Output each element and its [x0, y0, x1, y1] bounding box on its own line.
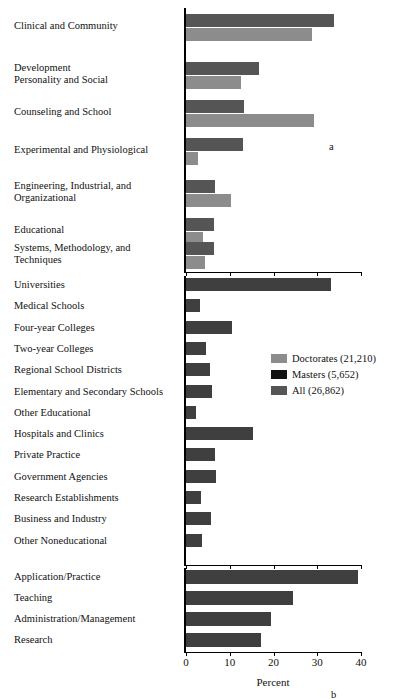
legend-label-masters: Masters (5,652): [292, 369, 359, 381]
category-label-b-9: Government Agencies: [14, 471, 180, 483]
panel-b-employment-settings: UniversitiesMedical SchoolsFour-year Col…: [0, 276, 394, 568]
bar-a-6-doctorates: [186, 256, 205, 269]
legend-item-doctorates: Doctorates (21,210): [271, 351, 393, 366]
category-label-c-2: Administration/Management: [14, 613, 180, 625]
category-label-a-3: Experimental and Physiological: [14, 144, 180, 156]
panel-a-subfields: Clinical and CommunityDevelopmentPersona…: [0, 8, 394, 274]
legend-item-all: All (26,862): [271, 383, 393, 398]
x-tick-label-0: 0: [183, 656, 189, 668]
category-label-b-6: Other Educational: [14, 407, 180, 419]
x-tick-label-30: 30: [312, 656, 323, 668]
category-label-a-5: Educational: [14, 224, 180, 236]
panel-c-primary-activities: 010203040 Percent Application/PracticeTe…: [0, 568, 394, 699]
category-label-line1: Clinical and Community: [14, 20, 118, 31]
category-label-b-10: Research Establishments: [14, 492, 180, 504]
bar-b-2: [186, 321, 232, 334]
category-label-line2: Organizational: [14, 192, 180, 204]
category-label-a-2: Counseling and School: [14, 106, 180, 118]
category-label-b-2: Four-year Colleges: [14, 322, 180, 334]
bar-b-8: [186, 448, 215, 461]
x-tick-label-40: 40: [356, 656, 367, 668]
bar-a-3-all: [186, 138, 243, 151]
x-axis-a: [184, 272, 362, 273]
legend-item-masters: Masters (5,652): [271, 367, 393, 382]
category-label-a-1: DevelopmentPersonality and Social: [14, 62, 180, 85]
bar-b-7: [186, 427, 253, 440]
category-label-c-0: Application/Practice: [14, 571, 180, 583]
bar-a-4-doctorates: [186, 194, 231, 207]
category-label-line1: Engineering, Industrial, and: [14, 180, 131, 191]
x-tick-label-10: 10: [224, 656, 235, 668]
category-label-b-11: Business and Industry: [14, 513, 180, 525]
bar-a-2-all: [186, 100, 244, 113]
category-label-b-5: Elementary and Secondary Schools: [14, 386, 180, 398]
bar-b-12: [186, 534, 202, 547]
category-label-line1: Experimental and Physiological: [14, 144, 148, 155]
legend-label-doctorates: Doctorates (21,210): [292, 353, 376, 365]
x-axis-title: Percent: [184, 676, 362, 688]
category-label-b-7: Hospitals and Clinics: [14, 428, 180, 440]
x-axis-tick-labels: 010203040: [184, 656, 362, 670]
bar-a-0-doctorates: [186, 28, 312, 41]
bar-c-1: [186, 591, 293, 605]
category-label-a-4: Engineering, Industrial, andOrganization…: [14, 180, 180, 203]
bar-a-2-doctorates: [186, 114, 314, 127]
figure-psychology-employment-chart: Clinical and CommunityDevelopmentPersona…: [0, 0, 394, 699]
bar-a-4-all: [186, 180, 215, 193]
plot-area-c: [184, 568, 361, 652]
category-label-b-3: Two-year Colleges: [14, 343, 180, 355]
bar-a-6-all: [186, 242, 214, 255]
category-label-a-0: Clinical and Community: [14, 20, 180, 32]
legend-swatch-masters: [271, 370, 287, 379]
category-label-line1: Systems, Methodology, and: [14, 242, 131, 253]
bar-b-3: [186, 342, 206, 355]
bar-a-0-all: [186, 14, 334, 27]
category-label-b-0: Universities: [14, 279, 180, 291]
plot-area-b: [184, 276, 361, 565]
category-label-line2: Techniques: [14, 254, 180, 266]
bar-b-5: [186, 385, 212, 398]
bar-c-2: [186, 612, 271, 626]
category-label-a-6: Systems, Methodology, andTechniques: [14, 242, 180, 265]
x-axis-b: [184, 565, 362, 566]
bar-c-3: [186, 633, 261, 647]
legend-label-all: All (26,862): [292, 385, 344, 397]
bar-a-1-doctorates: [186, 76, 241, 89]
bar-b-11: [186, 512, 211, 525]
legend-swatch-doctorates: [271, 354, 287, 363]
category-label-line1: Development: [14, 62, 71, 73]
category-label-b-1: Medical Schools: [14, 300, 180, 312]
plot-area-a: [184, 8, 361, 272]
category-label-c-3: Research: [14, 634, 180, 646]
category-label-b-4: Regional School Districts: [14, 364, 180, 376]
bar-b-0: [186, 278, 331, 291]
category-label-line1: Counseling and School: [14, 106, 111, 117]
bar-b-6: [186, 406, 196, 419]
bar-b-9: [186, 470, 216, 483]
chart-legend: Doctorates (21,210)Masters (5,652)All (2…: [271, 351, 393, 399]
x-axis-c: [184, 652, 362, 653]
category-label-b-12: Other Noneducational: [14, 535, 180, 547]
category-label-b-8: Private Practice: [14, 449, 180, 461]
category-label-line1: Educational: [14, 224, 64, 235]
panel-letter-a: a: [329, 141, 334, 152]
bar-c-0: [186, 570, 358, 584]
category-label-line2: Personality and Social: [14, 74, 180, 86]
bar-a-1-all: [186, 62, 259, 75]
bar-b-1: [186, 299, 200, 312]
bar-a-3-doctorates: [186, 152, 198, 165]
bar-b-4: [186, 363, 210, 376]
legend-swatch-all: [271, 386, 287, 395]
x-tick-label-20: 20: [268, 656, 279, 668]
category-label-c-1: Teaching: [14, 592, 180, 604]
bar-a-5-all: [186, 218, 214, 231]
bar-b-10: [186, 491, 201, 504]
